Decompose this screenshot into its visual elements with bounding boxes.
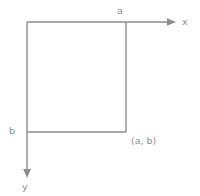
label-b: b bbox=[9, 126, 15, 136]
y-axis-arrow-icon bbox=[23, 169, 31, 178]
diagram-canvas: a x b (a, b) y bbox=[0, 0, 200, 196]
label-x-axis: x bbox=[182, 17, 188, 27]
label-a: a bbox=[117, 6, 123, 16]
label-point-ab: (a, b) bbox=[131, 136, 156, 146]
diagram-svg bbox=[0, 0, 200, 196]
label-y-axis: y bbox=[22, 182, 28, 192]
x-axis-arrow-icon bbox=[167, 18, 176, 26]
